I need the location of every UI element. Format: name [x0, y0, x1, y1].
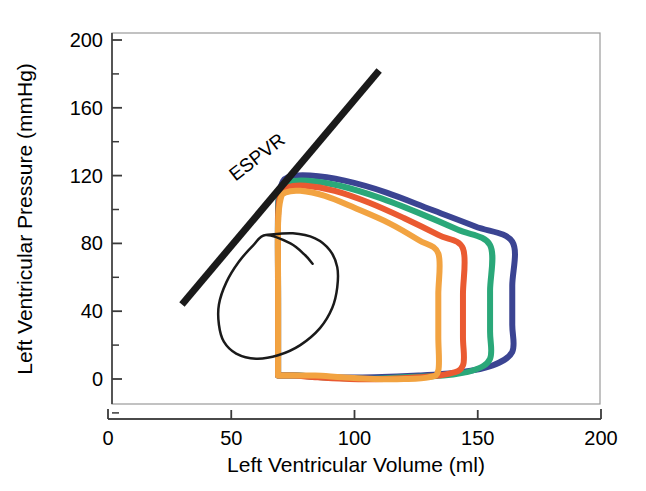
y-tick-label: 0: [92, 368, 103, 390]
x-tick-label: 200: [584, 427, 617, 449]
y-axis-label: Left Ventricular Pressure (mmHg): [13, 63, 36, 375]
x-axis-label: Left Ventricular Volume (ml): [227, 453, 485, 476]
x-tick-label: 100: [338, 427, 371, 449]
x-tick-label: 150: [461, 427, 494, 449]
y-tick-label: 120: [70, 165, 103, 187]
x-tick-label: 50: [220, 427, 242, 449]
y-tick-label: 40: [81, 300, 103, 322]
pv-loop-figure: 04080120160200 050100150200 ESPVR Left V…: [0, 0, 646, 491]
y-tick-label: 160: [70, 97, 103, 119]
y-tick-label: 200: [70, 29, 103, 51]
chart-canvas: 04080120160200 050100150200 ESPVR Left V…: [0, 0, 646, 491]
y-tick-label: 80: [81, 232, 103, 254]
x-tick-label: 0: [102, 427, 113, 449]
